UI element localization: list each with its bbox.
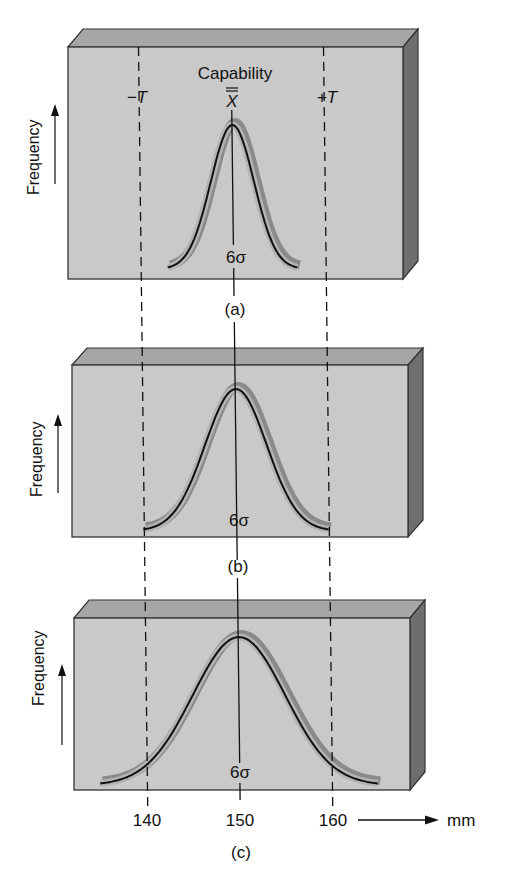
six-sigma-label-a: 6σ bbox=[226, 248, 246, 267]
grand-mean-symbol: X bbox=[225, 92, 238, 111]
panels bbox=[68, 29, 425, 790]
unit-mm-label: mm bbox=[447, 811, 475, 830]
caption-a: (a) bbox=[225, 300, 246, 319]
caption-c: (c) bbox=[231, 843, 251, 862]
frequency-axis-c: Frequency bbox=[30, 630, 66, 745]
box-top-face bbox=[74, 600, 425, 618]
panel-c bbox=[74, 600, 425, 790]
frequency-axis-a: Frequency bbox=[25, 104, 59, 195]
arrow-up-icon bbox=[54, 414, 62, 426]
upper-tolerance-label: +T bbox=[317, 88, 339, 107]
frequency-label: Frequency bbox=[25, 119, 42, 195]
caption-b: (b) bbox=[228, 557, 249, 576]
box-top-face bbox=[72, 348, 423, 365]
frequency-label: Frequency bbox=[28, 421, 45, 497]
frequency-axis-b: Frequency bbox=[28, 414, 62, 497]
tick-150: 150 bbox=[226, 811, 254, 830]
arrow-right-icon bbox=[425, 816, 439, 825]
capability-label: Capability bbox=[198, 64, 273, 83]
box-side-face bbox=[408, 348, 423, 537]
arrow-up-icon bbox=[51, 104, 59, 116]
panel-b bbox=[72, 348, 423, 537]
tick-140: 140 bbox=[133, 811, 161, 830]
tick-160: 160 bbox=[319, 811, 347, 830]
six-sigma-label-b: 6σ bbox=[229, 511, 249, 530]
mm-axis-arrow bbox=[358, 816, 439, 825]
box-top-face bbox=[68, 29, 418, 47]
xbar-label: X bbox=[225, 88, 238, 111]
six-sigma-label-c: 6σ bbox=[230, 763, 250, 782]
box-side-face bbox=[403, 29, 418, 279]
lower-tolerance-label: −T bbox=[127, 88, 149, 107]
box-side-face bbox=[410, 600, 425, 790]
frequency-label: Frequency bbox=[30, 630, 47, 706]
arrow-up-icon bbox=[58, 664, 66, 676]
capability-figure: Capability −T X +T Frequency Frequency F… bbox=[0, 0, 509, 884]
